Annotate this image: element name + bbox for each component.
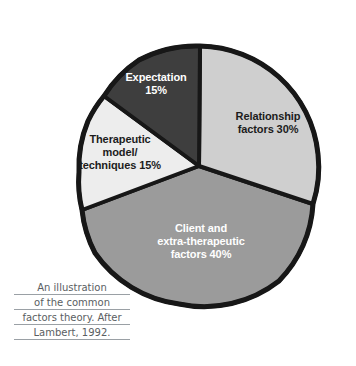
pie-chart-figure: Relationship factors 30% Client and extr… bbox=[0, 0, 356, 366]
figure-caption: An illustration of the common factors th… bbox=[14, 283, 130, 340]
caption-line: of the common bbox=[14, 298, 130, 310]
caption-line: factors theory. After bbox=[14, 313, 130, 325]
caption-line: Lambert, 1992. bbox=[14, 328, 130, 340]
caption-line: An illustration bbox=[14, 283, 130, 295]
